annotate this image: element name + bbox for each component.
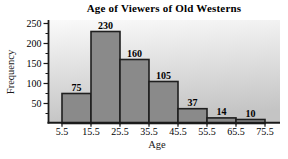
x-tick-label: 35.5 — [140, 126, 158, 137]
histogram-figure: Age of Viewers of Old Westerns Frequency… — [0, 0, 288, 159]
bar — [178, 109, 207, 124]
bar-value-label: 37 — [188, 97, 198, 108]
bar-value-label: 14 — [217, 106, 227, 117]
bar — [120, 60, 149, 124]
bar-value-label: 230 — [98, 20, 113, 31]
histogram-chart: 75230160105371410501001502002505.515.525… — [0, 0, 288, 159]
y-tick-label: 200 — [27, 38, 42, 49]
y-tick-label: 50 — [32, 98, 42, 109]
x-tick-label: 55.5 — [198, 126, 216, 137]
bar-value-label: 160 — [127, 48, 142, 59]
x-tick-label: 65.5 — [227, 126, 245, 137]
x-tick-label: 75.5 — [256, 126, 274, 137]
bar-value-label: 10 — [246, 108, 256, 119]
bar — [91, 32, 120, 124]
bar-value-label: 75 — [72, 82, 82, 93]
y-tick-label: 150 — [27, 58, 42, 69]
x-tick-label: 15.5 — [82, 126, 100, 137]
x-tick-label: 5.5 — [56, 126, 69, 137]
bar-value-label: 105 — [156, 70, 171, 81]
x-axis-title: Age — [48, 139, 266, 150]
y-tick-label: 100 — [27, 78, 42, 89]
y-tick-label: 250 — [27, 18, 42, 29]
bar — [149, 82, 178, 124]
x-tick-label: 45.5 — [169, 126, 187, 137]
bar — [62, 94, 91, 124]
x-tick-label: 25.5 — [111, 126, 129, 137]
